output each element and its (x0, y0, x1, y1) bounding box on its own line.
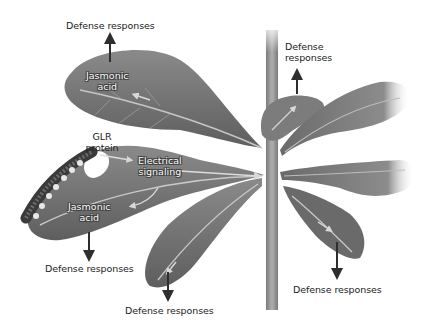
defense-label-bottom-center: Defense responses (125, 305, 214, 316)
glr-protein-label: GLR protein (82, 131, 122, 153)
jasmonic-top-line1: Jasmonic (86, 70, 129, 81)
jasmonic-bottom-line2: acid (68, 212, 111, 223)
defense-label-top-left: Defense responses (66, 20, 155, 31)
electrical-line1: Electrical (138, 155, 182, 166)
defense-label-top-right: Defense responses (285, 41, 332, 63)
glr-line1: GLR (82, 131, 122, 142)
glr-line2: protein (82, 142, 122, 153)
defense-top-right-line1: Defense (285, 41, 332, 52)
jasmonic-acid-label-bottom: Jasmonic acid (68, 201, 111, 223)
electrical-line2: signaling (138, 166, 182, 177)
lower-right-leaf (283, 186, 364, 259)
defense-top-right-line2: responses (285, 52, 332, 63)
defense-label-bottom-left: Defense responses (45, 263, 134, 274)
jasmonic-bottom-line1: Jasmonic (68, 201, 111, 212)
plant-defense-diagram: Defense responses Jasmonic acid Defense … (0, 0, 430, 334)
main-stem (260, 22, 284, 310)
jasmonic-top-line2: acid (86, 81, 129, 92)
electrical-signaling-label: Electrical signaling (138, 155, 182, 177)
jasmonic-acid-label-top: Jasmonic acid (86, 70, 129, 92)
defense-label-bottom-right: Defense responses (293, 284, 382, 295)
